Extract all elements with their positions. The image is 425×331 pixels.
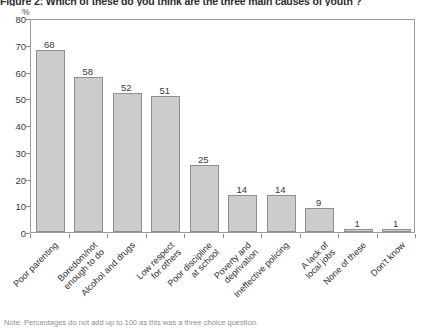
x-axis-tick-mark — [146, 234, 147, 238]
bar — [305, 208, 334, 232]
x-axis-tick-mark — [415, 234, 416, 238]
y-axis-tick-label: 20 — [4, 174, 26, 185]
figure-footnote: Note: Percentages do not add up to 100 a… — [4, 318, 424, 327]
plot-area — [30, 19, 415, 233]
y-axis-tick-label: 80 — [4, 14, 26, 25]
bar — [74, 77, 103, 232]
x-axis-tick-mark — [377, 234, 378, 238]
bar — [228, 195, 257, 232]
bars-layer — [31, 20, 414, 232]
x-axis-tick-mark — [300, 234, 301, 238]
bar — [113, 93, 142, 232]
y-axis-tick-label: 40 — [4, 121, 26, 132]
x-axis-tick-mark — [107, 234, 108, 238]
y-axis-tick-label: 30 — [4, 147, 26, 158]
y-axis-tick-label: 10 — [4, 201, 26, 212]
x-axis-tick-mark — [338, 234, 339, 238]
bar — [190, 165, 219, 232]
x-axis-tick-mark — [184, 234, 185, 238]
x-axis-tick-mark — [261, 234, 262, 238]
bar-value-label: 1 — [373, 218, 418, 229]
y-axis-tick-label: 60 — [4, 67, 26, 78]
bar-value-label: 14 — [258, 184, 303, 195]
y-axis-tick-label: 50 — [4, 94, 26, 105]
y-axis-tick-label: 0 — [4, 228, 26, 239]
x-axis-tick-mark — [69, 234, 70, 238]
y-axis-tick-label: 70 — [4, 40, 26, 51]
bar — [267, 195, 296, 232]
bar — [344, 229, 373, 232]
x-axis-tick-mark — [30, 234, 31, 238]
bar — [382, 229, 411, 232]
x-axis-tick-mark — [223, 234, 224, 238]
bar-value-label: 9 — [296, 197, 341, 208]
bar — [36, 50, 65, 232]
bar-value-label: 25 — [181, 154, 226, 165]
figure-title: Figure 2: Which of these do you think ar… — [0, 0, 425, 6]
bar-value-label: 51 — [142, 85, 187, 96]
bar-value-label: 58 — [65, 66, 110, 77]
bar — [151, 96, 180, 232]
bar-value-label: 68 — [27, 39, 72, 50]
